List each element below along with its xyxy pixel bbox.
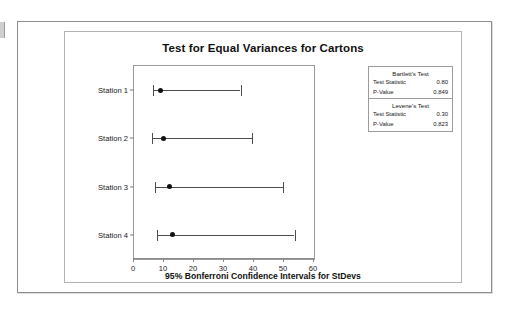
y-axis-category-label: Station 2 [98, 134, 134, 143]
test-result-row: P-Value0.823 [369, 121, 452, 131]
interval-lower-cap [157, 230, 158, 241]
test-result-label: Test Statistic [373, 111, 406, 119]
interval-upper-cap [295, 230, 296, 241]
x-axis-tick [193, 258, 194, 262]
x-axis-tick [313, 258, 314, 262]
y-axis-category-label: Station 4 [98, 230, 134, 239]
page-title: Test for Equal Variances for Cartons [65, 42, 461, 54]
test-result-row: Test Statistic0.80 [369, 79, 452, 89]
test-result-section: Levene's TestTest Statistic0.30P-Value0.… [369, 98, 452, 130]
test-result-row: P-Value0.849 [369, 88, 452, 98]
test-result-label: P-Value [373, 89, 394, 97]
interval-center-point [170, 232, 175, 237]
interval-line [152, 138, 252, 139]
test-results-legend: Bartlett's TestTest Statistic0.80P-Value… [368, 66, 453, 132]
y-axis-category-label: Station 1 [98, 86, 134, 95]
x-axis-tick [283, 258, 284, 262]
interval-line [153, 90, 240, 91]
test-result-value: 0.849 [433, 89, 448, 97]
test-name: Bartlett's Test [369, 67, 452, 79]
plot-area: Station 1Station 2Station 3Station 4 [133, 65, 315, 260]
test-name: Levene's Test [369, 99, 452, 111]
graph-panel: Test for Equal Variances for Cartons Sta… [64, 31, 462, 283]
interval-upper-cap [252, 133, 253, 144]
interval-center-point [161, 136, 166, 141]
document-canvas: Test for Equal Variances for Cartons Sta… [0, 0, 510, 311]
test-result-row: Test Statistic0.30 [369, 111, 452, 121]
interval-line [157, 235, 295, 236]
x-axis-tick [163, 258, 164, 262]
interval-upper-cap [241, 85, 242, 96]
interval-center-point [158, 88, 163, 93]
y-axis-category-label: Station 3 [98, 182, 134, 191]
interval-lower-cap [155, 182, 156, 193]
interval-center-point [167, 184, 172, 189]
test-result-value: 0.823 [433, 121, 448, 129]
x-axis-title: 95% Bonferroni Confidence Intervals for … [65, 271, 461, 281]
x-axis-tick [133, 258, 134, 262]
x-axis-tick [223, 258, 224, 262]
interval-upper-cap [283, 182, 284, 193]
test-result-value: 0.80 [437, 79, 448, 87]
test-result-section: Bartlett's TestTest Statistic0.80P-Value… [369, 67, 452, 98]
test-result-label: Test Statistic [373, 79, 406, 87]
interval-lower-cap [152, 133, 153, 144]
page-edge-marker [0, 22, 5, 38]
interval-lower-cap [153, 85, 154, 96]
document-sheet: Test for Equal Variances for Cartons Sta… [17, 21, 492, 293]
interval-line [155, 187, 283, 188]
test-result-value: 0.30 [437, 111, 448, 119]
x-axis-tick [253, 258, 254, 262]
x-axis: 0102030405060 [133, 258, 313, 259]
test-result-label: P-Value [373, 121, 394, 129]
